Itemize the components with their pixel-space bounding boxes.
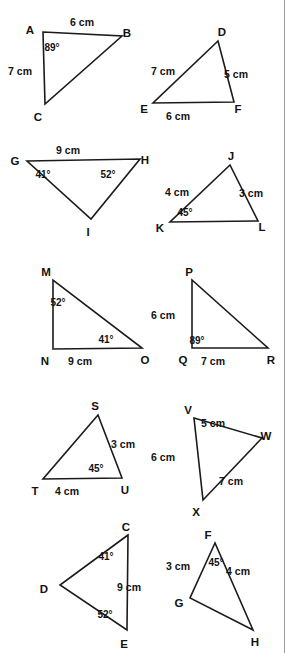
triangle-ghi-vertex-h: H bbox=[141, 154, 149, 166]
triangle-ghi-vertex-g: G bbox=[11, 155, 20, 167]
triangle-def-vertex-d: D bbox=[218, 26, 226, 38]
triangle-jkl-angle-1: 45° bbox=[177, 207, 192, 218]
triangle-mno-angle-1: 52° bbox=[50, 297, 65, 308]
triangle-abc-side-length-1: 6 cm bbox=[70, 16, 94, 28]
triangle-abc-angle-1: 89° bbox=[44, 42, 59, 53]
triangle-def: DEF7 cm5 cm6 cm bbox=[140, 26, 248, 122]
triangle-jkl: JKL4 cm3 cm45° bbox=[156, 150, 266, 234]
triangle-cde-vertex-c: C bbox=[122, 521, 130, 533]
triangle-jkl-side-length-1: 4 cm bbox=[165, 186, 189, 198]
triangle-vwx-outline bbox=[194, 418, 262, 500]
triangle-cde-vertex-e: E bbox=[120, 638, 128, 650]
triangle-abc-vertex-a: A bbox=[26, 24, 34, 36]
triangle-pqr-side-length-2: 7 cm bbox=[201, 355, 225, 367]
triangle-stu-side-length-2: 4 cm bbox=[55, 485, 79, 497]
triangle-pqr-angle-1: 89° bbox=[189, 335, 204, 346]
triangle-fgh-side-length-2: 4 cm bbox=[226, 565, 250, 577]
triangle-abc-vertex-b: B bbox=[123, 27, 131, 39]
triangle-ghi-angle-1: 41° bbox=[35, 169, 50, 180]
triangle-def-vertex-f: F bbox=[234, 103, 241, 115]
triangle-ghi-side-length-1: 9 cm bbox=[56, 144, 80, 156]
triangle-jkl-vertex-j: J bbox=[228, 150, 234, 162]
triangle-ghi: GHI9 cm41°52° bbox=[11, 144, 150, 238]
triangle-jkl-side-length-2: 3 cm bbox=[239, 187, 263, 199]
triangle-mno-vertex-o: O bbox=[141, 354, 150, 366]
triangle-abc: ABC6 cm7 cm89° bbox=[8, 16, 131, 123]
triangle-abc-vertex-c: C bbox=[34, 111, 42, 123]
triangle-stu-vertex-t: T bbox=[31, 485, 38, 497]
triangle-mno-vertex-n: N bbox=[41, 355, 49, 367]
triangle-cde-angle-1: 41° bbox=[98, 551, 113, 562]
triangle-abc-side-length-2: 7 cm bbox=[8, 65, 32, 77]
triangle-cde-vertex-d: D bbox=[40, 583, 48, 595]
triangle-cde-angle-2: 52° bbox=[97, 609, 112, 620]
triangle-stu: STU3 cm4 cm45° bbox=[31, 400, 134, 497]
triangle-pqr: PQR6 cm7 cm89° bbox=[151, 266, 276, 367]
triangle-pqr-vertex-q: Q bbox=[179, 354, 188, 366]
triangle-mno-vertex-m: M bbox=[41, 266, 51, 278]
triangle-jkl-vertex-k: K bbox=[156, 222, 165, 234]
triangle-mno-angle-2: 41° bbox=[98, 334, 113, 345]
triangle-fgh-vertex-g: G bbox=[175, 597, 184, 609]
triangle-figures-layer: ABC6 cm7 cm89°DEF7 cm5 cm6 cmGHI9 cm41°5… bbox=[8, 16, 276, 650]
triangle-mno-side-length-1: 9 cm bbox=[68, 355, 92, 367]
triangle-stu-vertex-u: U bbox=[121, 484, 129, 496]
triangle-def-side-length-3: 6 cm bbox=[166, 110, 190, 122]
triangle-vwx-side-length-1: 5 cm bbox=[201, 417, 225, 429]
triangle-pqr-side-length-1: 6 cm bbox=[151, 309, 175, 321]
triangle-stu-side-length-1: 3 cm bbox=[111, 438, 135, 450]
triangle-stu-angle-1: 45° bbox=[88, 463, 103, 474]
triangle-vwx-side-length-3: 7 cm bbox=[219, 475, 243, 487]
triangle-fgh-vertex-h: H bbox=[251, 636, 259, 648]
triangles-figure-canvas: ABC6 cm7 cm89°DEF7 cm5 cm6 cmGHI9 cm41°5… bbox=[0, 0, 295, 653]
triangle-ghi-angle-2: 52° bbox=[100, 169, 115, 180]
triangle-fgh-angle-1: 45° bbox=[208, 557, 223, 568]
triangle-fgh: FGH3 cm4 cm45° bbox=[166, 529, 259, 648]
triangle-ghi-vertex-i: I bbox=[86, 226, 89, 238]
triangle-fgh-vertex-f: F bbox=[204, 529, 211, 541]
triangle-fgh-side-length-1: 3 cm bbox=[166, 560, 190, 572]
triangle-jkl-vertex-l: L bbox=[258, 221, 265, 233]
triangle-def-vertex-e: E bbox=[140, 103, 148, 115]
triangle-stu-vertex-s: S bbox=[91, 400, 99, 412]
triangle-mno: MNO9 cm52°41° bbox=[41, 266, 150, 367]
triangle-def-side-length-2: 5 cm bbox=[224, 68, 248, 80]
triangle-vwx-vertex-x: X bbox=[192, 506, 200, 518]
triangle-vwx-vertex-w: W bbox=[261, 430, 272, 442]
worksheet-page: ABC6 cm7 cm89°DEF7 cm5 cm6 cmGHI9 cm41°5… bbox=[0, 0, 295, 653]
triangle-vwx-vertex-v: V bbox=[184, 404, 192, 416]
triangle-vwx-side-length-2: 6 cm bbox=[151, 451, 175, 463]
triangle-pqr-vertex-r: R bbox=[267, 354, 276, 366]
triangle-cde: CDE9 cm41°52° bbox=[40, 521, 141, 650]
triangle-vwx: VWX5 cm6 cm7 cm bbox=[151, 404, 272, 518]
triangle-pqr-vertex-p: P bbox=[185, 266, 193, 278]
triangle-def-side-length-1: 7 cm bbox=[151, 65, 175, 77]
triangle-cde-side-length-1: 9 cm bbox=[117, 581, 141, 593]
